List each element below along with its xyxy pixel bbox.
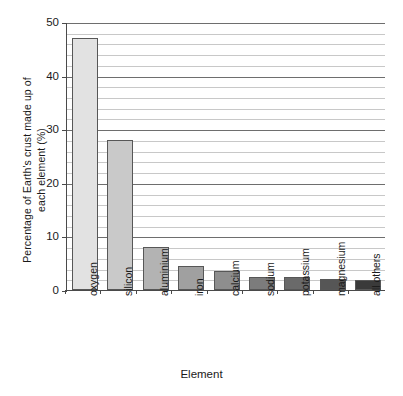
y-axis-tick-label: 40	[46, 71, 59, 83]
bar-chart: Percentage of Earth's crust made up of e…	[0, 0, 403, 396]
x-axis-tick-label: oxygen	[88, 262, 99, 296]
gridline-minor	[67, 119, 385, 120]
y-axis-title-line-1: Percentage of Earth's crust made up of	[20, 77, 34, 263]
y-axis-tick-label: 0	[53, 285, 59, 297]
y-axis-tick	[62, 130, 67, 131]
x-axis-tick	[207, 290, 208, 294]
gridline-minor	[67, 34, 385, 35]
x-axis-tick-label: aluminium	[159, 248, 170, 296]
gridline-minor	[67, 44, 385, 45]
x-axis-tick-label: sodium	[265, 262, 276, 296]
gridline-major	[67, 23, 385, 24]
y-axis-tick-label: 20	[46, 178, 59, 190]
gridline-minor	[67, 109, 385, 110]
gridline-major	[67, 130, 385, 131]
y-axis-tick-label: 30	[46, 124, 59, 136]
y-axis-tick-label: 10	[46, 232, 59, 244]
x-axis-tick-label: potassium	[300, 248, 311, 296]
gridline-minor	[67, 55, 385, 56]
y-axis-tick	[62, 23, 67, 24]
x-axis-tick-label: calcium	[230, 260, 241, 296]
x-axis-tick	[136, 290, 137, 294]
x-axis-tick	[171, 290, 172, 294]
x-axis-tick-label: magnesium	[336, 242, 347, 296]
x-axis-tick	[348, 290, 349, 294]
x-axis-title: Element	[0, 368, 403, 380]
y-axis-tick	[62, 184, 67, 185]
gridline-major	[67, 77, 385, 78]
x-axis-tick-label: iron	[194, 278, 205, 296]
y-axis-tick	[62, 77, 67, 78]
x-axis-tick	[313, 290, 314, 294]
x-axis-tick	[277, 290, 278, 294]
gridline-minor	[67, 87, 385, 88]
y-axis-tick-label: 50	[46, 17, 59, 29]
gridline-minor	[67, 66, 385, 67]
x-axis-tick	[242, 290, 243, 294]
x-axis-tick	[65, 290, 66, 294]
gridline-minor	[67, 98, 385, 99]
y-axis-tick	[62, 237, 67, 238]
x-axis-tick-label: silicon	[123, 267, 134, 296]
bar	[72, 38, 98, 290]
x-axis-tick	[100, 290, 101, 294]
x-axis-tick-label: all others	[371, 253, 382, 296]
y-axis-title-line-2: each element (%)	[34, 128, 48, 212]
